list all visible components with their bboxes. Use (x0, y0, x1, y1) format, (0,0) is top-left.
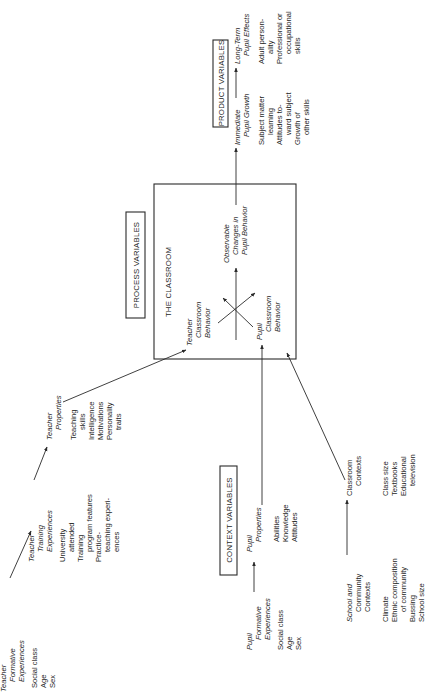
teacher-training-node: Teacher Training Experiences University … (27, 494, 121, 562)
process-variables-label: PROCESS VARIABLES (132, 222, 141, 308)
svg-text:Pupil Behavior: Pupil Behavior (240, 206, 249, 255)
svg-text:Community: Community (354, 573, 363, 612)
svg-text:ward subject: ward subject (284, 91, 293, 136)
svg-text:Training: Training (76, 535, 85, 562)
svg-text:Textbooks: Textbooks (390, 462, 399, 496)
svg-text:Social class: Social class (276, 610, 285, 650)
svg-text:Experiences: Experiences (45, 510, 54, 552)
svg-text:Pupil Effects: Pupil Effects (242, 14, 251, 56)
pupil-properties-node: Pupil Properties Abilities Knowledge Att… (245, 504, 299, 552)
svg-text:other skills: other skills (302, 99, 311, 135)
svg-text:Ethnic composition: Ethnic composition (390, 558, 399, 622)
svg-text:television: television (408, 454, 417, 486)
teacher-properties-node: Teacher Properties Teaching skills Intel… (45, 395, 123, 440)
svg-text:traits: traits (114, 413, 123, 430)
svg-text:Contexts: Contexts (354, 456, 363, 486)
school-community-node: School and Community Contexts Climate Et… (345, 558, 426, 622)
classroom-model-diagram: PROCESS VARIABLES PRODUCT VARIABLES CONT… (0, 0, 445, 693)
svg-text:Behavior: Behavior (273, 302, 282, 332)
svg-text:Social class: Social class (30, 648, 39, 688)
svg-text:Changes in: Changes in (231, 217, 240, 255)
svg-text:Contexts: Contexts (363, 582, 372, 612)
context-variables-label: CONTEXT VARIABLES (225, 477, 234, 562)
classroom-title: THE CLASSROOM (164, 247, 173, 317)
svg-text:Experiences: Experiences (17, 640, 26, 682)
svg-text:Attitudes to-: Attitudes to- (275, 104, 284, 145)
svg-text:Age: Age (39, 674, 48, 688)
svg-text:Subject matter: Subject matter (257, 96, 266, 145)
svg-text:Training: Training (36, 524, 45, 552)
svg-text:attended: attended (67, 522, 76, 552)
svg-text:skills: skills (78, 413, 87, 430)
classroom-contexts-node: Classroom Contexts Class size Textbooks … (345, 454, 417, 496)
svg-text:skills: skills (293, 37, 302, 54)
svg-text:Sex: Sex (48, 675, 57, 688)
arrow-pupil-to-teacher-behavior (223, 298, 253, 327)
svg-text:Pupil: Pupil (245, 535, 254, 552)
arrow-classroom-contexts-to-pupil-behavior (287, 353, 345, 480)
svg-text:occupational: occupational (284, 11, 293, 54)
svg-text:Class size: Class size (381, 461, 390, 496)
svg-text:Long-Term: Long-Term (233, 28, 242, 64)
svg-text:Abilities: Abilities (272, 516, 281, 542)
svg-text:Teaching: Teaching (69, 410, 78, 440)
svg-text:Observable: Observable (222, 224, 231, 263)
svg-text:Attitudes: Attitudes (290, 512, 299, 542)
svg-text:learning: learning (266, 108, 275, 135)
svg-text:Teacher: Teacher (185, 318, 194, 346)
svg-text:Age: Age (285, 636, 294, 650)
svg-text:Properties: Properties (254, 507, 263, 542)
svg-text:Practice-: Practice- (94, 532, 103, 562)
arrow-training-to-teacher-properties (34, 447, 47, 480)
svg-text:ality: ality (266, 40, 275, 54)
observable-changes-node: Observable Changes in Pupil Behavior (222, 206, 249, 263)
svg-text:Classroom: Classroom (194, 302, 203, 338)
svg-text:Formative: Formative (8, 648, 17, 682)
svg-text:Classroom: Classroom (345, 460, 354, 496)
svg-text:Climate: Climate (381, 596, 390, 622)
svg-text:Personality: Personality (105, 402, 114, 440)
svg-text:School and: School and (345, 583, 354, 622)
svg-text:Professional or: Professional or (275, 13, 284, 64)
svg-text:teaching experi-: teaching experi- (103, 497, 112, 552)
svg-text:program features: program features (85, 494, 94, 552)
svg-text:Teacher: Teacher (0, 664, 8, 692)
arrow-teacher-properties-to-classroom (63, 350, 186, 402)
arrow-teacher-to-pupil-behavior (218, 293, 255, 323)
svg-text:Pupil: Pupil (245, 633, 254, 650)
svg-text:Experiences: Experiences (263, 598, 272, 640)
svg-text:Motivations: Motivations (96, 401, 105, 440)
svg-text:Sex: Sex (294, 637, 303, 650)
svg-text:Classroom: Classroom (264, 296, 273, 332)
svg-text:Teacher: Teacher (27, 534, 36, 562)
svg-text:Behavior: Behavior (203, 308, 212, 338)
svg-text:Pupil: Pupil (255, 323, 264, 340)
immediate-growth-node: Immediate Pupil Growth Subject matter le… (233, 91, 311, 145)
svg-text:of community: of community (399, 567, 408, 612)
svg-text:Immediate: Immediate (233, 110, 242, 145)
pupil-formative-node: Pupil Formative Experiences Social class… (245, 598, 303, 650)
svg-text:Adult person-: Adult person- (257, 18, 266, 64)
svg-text:Formative: Formative (254, 606, 263, 640)
teacher-formative-node: Teacher Formative Experiences Social cla… (0, 640, 57, 692)
pupil-classroom-behavior: Pupil Classroom Behavior (255, 296, 282, 340)
svg-text:Bussing: Bussing (408, 595, 417, 622)
svg-text:Growth of: Growth of (293, 111, 302, 145)
svg-text:University: University (58, 528, 67, 562)
svg-text:School size: School size (417, 583, 426, 622)
svg-text:Knowledge: Knowledge (281, 504, 290, 542)
teacher-classroom-behavior: Teacher Classroom Behavior (185, 302, 212, 346)
svg-text:Properties: Properties (54, 395, 63, 430)
product-variables-label: PRODUCT VARIABLES (217, 40, 226, 127)
svg-text:ences: ences (112, 532, 121, 552)
svg-text:Pupil Growth: Pupil Growth (242, 94, 251, 137)
svg-text:Intelligence: Intelligence (87, 402, 96, 440)
svg-text:Teacher: Teacher (45, 412, 54, 440)
long-term-effects-node: Long-Term Pupil Effects Adult person- al… (233, 11, 302, 64)
svg-text:Educational: Educational (399, 456, 408, 496)
